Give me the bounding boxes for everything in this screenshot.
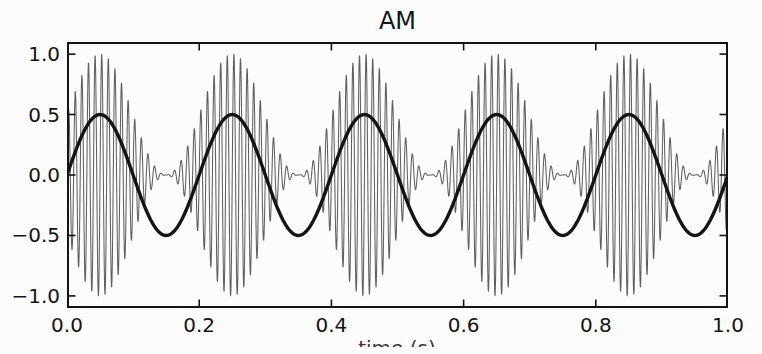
y-tick-label: −1.0 (0, 285, 60, 307)
x-tick-label: 0.0 (35, 313, 99, 337)
x-tick-label: 0.6 (432, 313, 496, 337)
x-tick-label: 0.8 (564, 313, 628, 337)
y-tick-label: 0.0 (0, 164, 60, 186)
x-axis-label-clip: time (s) (317, 338, 477, 347)
x-tick-label: 0.2 (167, 313, 231, 337)
chart-title: AM (67, 7, 728, 35)
figure: AM 1.00.50.0−0.5−1.00.00.20.40.60.81.0 t… (0, 0, 762, 354)
y-tick-label: −0.5 (0, 224, 60, 246)
y-tick-label: 0.5 (0, 104, 60, 126)
x-axis-label: time (s) (358, 338, 436, 347)
plot-area (67, 42, 728, 308)
x-tick-label: 0.4 (299, 313, 363, 337)
x-tick-label: 1.0 (696, 313, 760, 337)
y-tick-label: 1.0 (0, 43, 60, 65)
